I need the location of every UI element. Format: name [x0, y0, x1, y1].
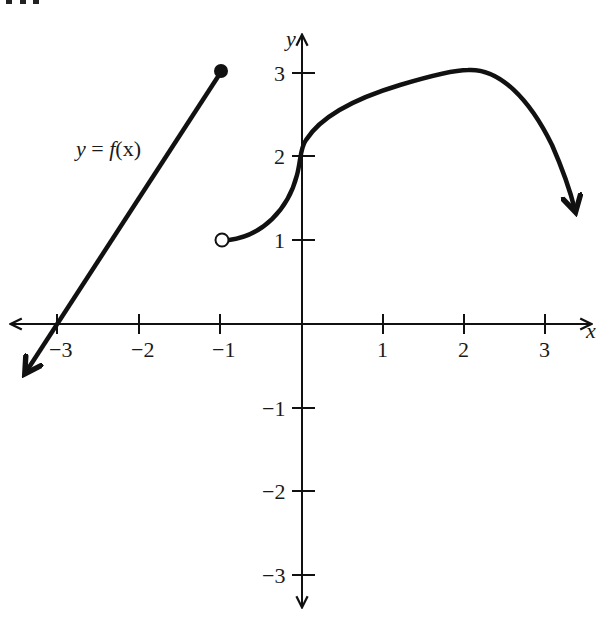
function-label: y = f(x)	[74, 136, 141, 161]
closed-endpoint	[214, 64, 228, 78]
x-tick-label: 3	[539, 337, 550, 362]
x-tick-labels: −3 −2 −1 1 2 3	[49, 337, 550, 362]
y-tick-label: 1	[274, 228, 285, 253]
open-endpoint	[216, 234, 229, 247]
function-graph: x y −3 −2 −1 1 2 3 3 2 1 −1 −2 −3 y =	[0, 0, 604, 622]
cropped-header-marks	[6, 0, 39, 4]
y-tick-label: −1	[262, 396, 285, 421]
x-tick-label: 1	[377, 337, 388, 362]
x-axis-label: x	[585, 318, 596, 343]
x-tick-label: −3	[49, 337, 72, 362]
y-axis-label: y	[284, 26, 296, 51]
x-tick-label: −2	[131, 337, 154, 362]
y-tick-label: 2	[274, 144, 285, 169]
y-tick-label: −3	[262, 563, 285, 588]
x-tick-label: 2	[458, 337, 469, 362]
y-tick-label: −2	[262, 479, 285, 504]
x-tick-label: −1	[212, 337, 235, 362]
linear-piece	[26, 72, 221, 372]
y-tick-label: 3	[274, 61, 285, 86]
